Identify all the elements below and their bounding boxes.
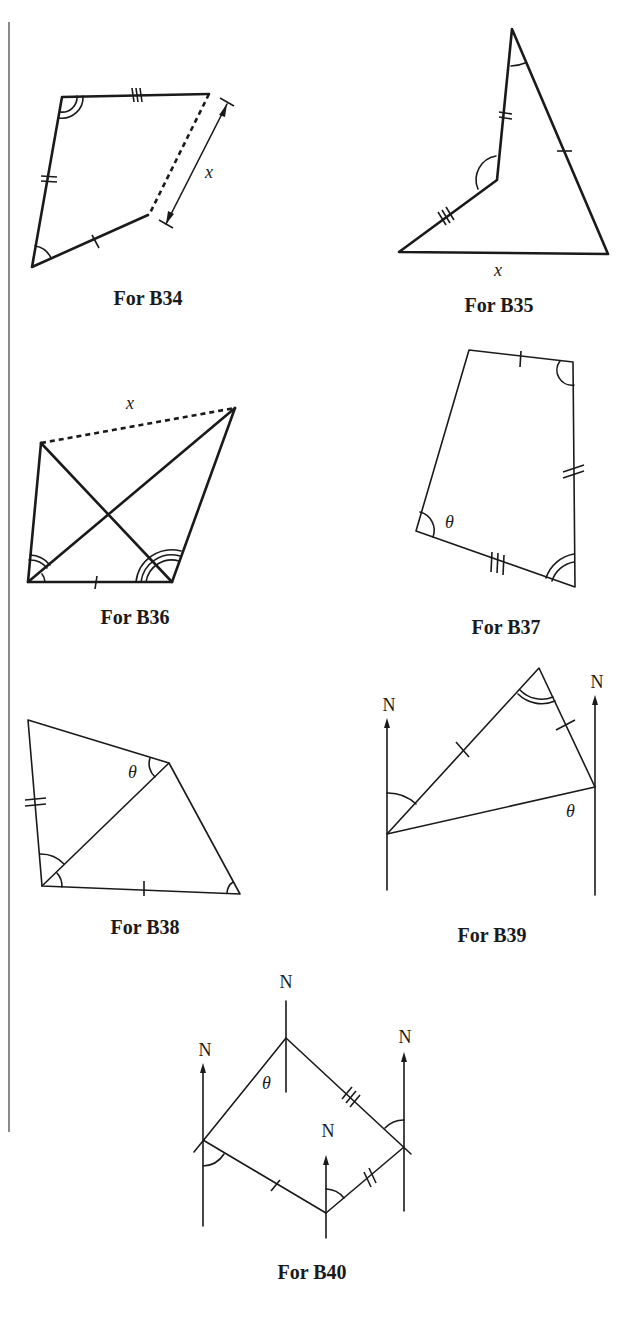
b36-x-label: x xyxy=(125,393,134,413)
b36-caption: For B36 xyxy=(100,606,169,628)
figure-b35: x For B35 xyxy=(399,29,608,316)
b35-caption: For B35 xyxy=(464,294,533,316)
figure-b39: N N θ For B39 xyxy=(383,668,604,946)
b37-theta-label: θ xyxy=(445,512,454,532)
b38-theta-label: θ xyxy=(128,762,137,782)
b39-north-right-label: N xyxy=(591,672,604,692)
b39-north-left-label: N xyxy=(383,695,396,715)
figure-b34: x For B34 xyxy=(32,88,234,309)
b34-caption: For B34 xyxy=(113,287,182,309)
b40-north-bottom-label: N xyxy=(322,1121,335,1141)
b39-caption: For B39 xyxy=(457,924,526,946)
figure-b38: θ For B38 xyxy=(25,720,240,938)
figure-b40: N N N N θ For B40 xyxy=(194,972,412,1283)
b37-caption: For B37 xyxy=(471,616,540,638)
figure-b37: θ For B37 xyxy=(416,350,584,638)
b40-caption: For B40 xyxy=(277,1261,346,1283)
b40-theta-label: θ xyxy=(262,1073,271,1093)
b40-north-right-label: N xyxy=(399,1027,412,1047)
b40-north-left-label: N xyxy=(199,1040,212,1060)
b38-caption: For B38 xyxy=(110,916,179,938)
figure-b36: x For B36 xyxy=(28,393,235,628)
b34-x-label: x xyxy=(204,162,213,182)
b40-north-top-label: N xyxy=(280,972,293,992)
b39-theta-label: θ xyxy=(566,801,575,821)
geometry-figures: x For B34 x For B35 x xyxy=(0,0,630,1334)
b35-x-label: x xyxy=(493,260,502,280)
